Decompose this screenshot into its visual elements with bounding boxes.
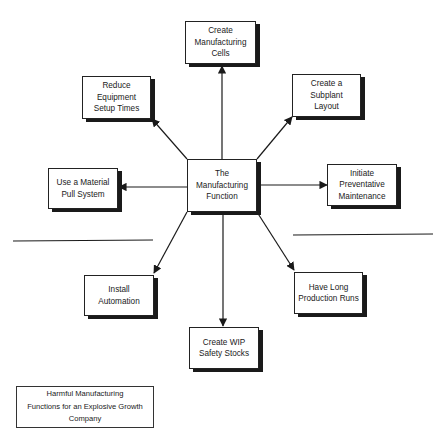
divider-left bbox=[13, 240, 153, 241]
node-create-manufacturing-cells: Create Manufacturing Cells bbox=[185, 21, 256, 64]
node-label: Use a Material Pull System bbox=[57, 177, 110, 200]
node-label: Initiate Preventative Maintenance bbox=[339, 168, 386, 203]
node-install-automation: Install Automation bbox=[84, 275, 154, 316]
node-label: Create a Subplant Layout bbox=[310, 78, 342, 113]
diagram-caption: Harmful Manufacturing Functions for an E… bbox=[16, 386, 154, 428]
node-label: Install Automation bbox=[98, 284, 139, 307]
caption-text: Harmful Manufacturing Functions for an E… bbox=[27, 388, 143, 426]
node-label: Have Long Production Runs bbox=[298, 282, 359, 305]
node-have-long-production-runs: Have Long Production Runs bbox=[294, 272, 363, 314]
center-label: The Manufacturing Function bbox=[196, 168, 248, 203]
connector-lines bbox=[0, 0, 443, 439]
node-use-material-pull-system: Use a Material Pull System bbox=[48, 168, 118, 209]
arrow-to-long-runs bbox=[257, 212, 294, 270]
arrow-to-automation bbox=[154, 212, 187, 273]
node-create-subplant-layout: Create a Subplant Layout bbox=[292, 74, 361, 117]
node-reduce-equipment-setup-times: Reduce Equipment Setup Times bbox=[82, 76, 151, 119]
divider-right bbox=[293, 234, 433, 235]
node-label: Create WIP Safety Stocks bbox=[199, 337, 249, 360]
center-node-manufacturing-function: The Manufacturing Function bbox=[187, 159, 257, 212]
node-create-wip-safety-stocks: Create WIP Safety Stocks bbox=[189, 327, 259, 369]
node-label: Create Manufacturing Cells bbox=[195, 25, 247, 60]
node-initiate-preventative-maintenance: Initiate Preventative Maintenance bbox=[327, 164, 397, 206]
arrow-to-subplant bbox=[257, 117, 292, 159]
arrow-to-reduce-setup bbox=[152, 119, 187, 159]
node-label: Reduce Equipment Setup Times bbox=[94, 80, 140, 115]
